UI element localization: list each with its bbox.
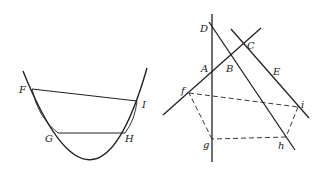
geometry-figure: F I G H D C A B E f i g h: [0, 0, 326, 171]
dash-h-g: [212, 137, 286, 139]
label-E: E: [272, 66, 281, 77]
label-G: G: [45, 133, 53, 144]
chord-fi: [32, 89, 137, 101]
label-I: I: [141, 99, 147, 110]
arc-fg-inner: [32, 89, 58, 133]
lines-figure: [163, 14, 309, 162]
parabola-figure: [23, 68, 147, 160]
label-i: i: [301, 99, 304, 110]
line-c-e: [231, 29, 309, 118]
figure-canvas: F I G H D C A B E f i g h: [0, 0, 326, 171]
dashed-pentagon: [189, 93, 298, 139]
label-F: F: [18, 84, 27, 95]
label-A: A: [200, 63, 208, 74]
dash-f-i: [189, 93, 298, 107]
dash-g-f: [189, 93, 212, 139]
label-g: g: [203, 139, 209, 150]
label-H: H: [124, 133, 134, 144]
label-h: h: [278, 140, 284, 151]
dash-i-h: [286, 107, 298, 137]
label-D: D: [199, 23, 208, 34]
label-B: B: [225, 63, 233, 74]
label-C: C: [247, 40, 255, 51]
